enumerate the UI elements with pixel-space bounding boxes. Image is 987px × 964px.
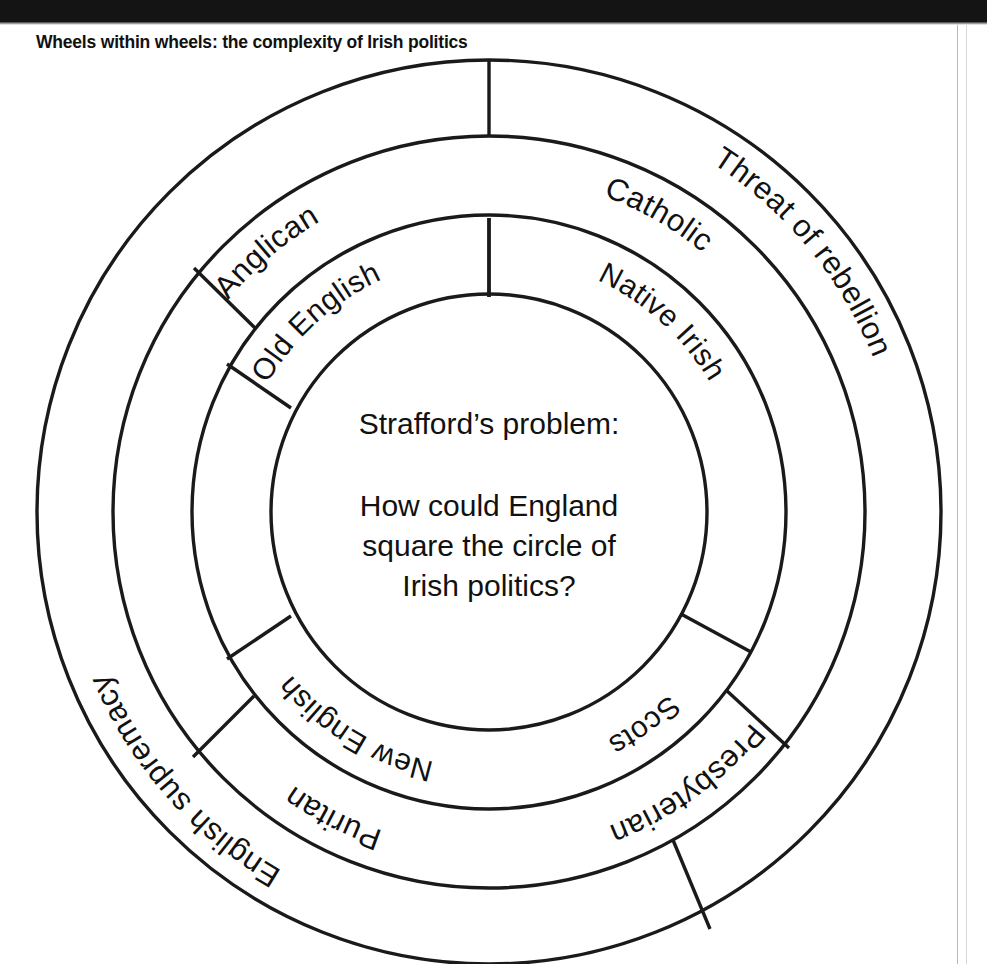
center-line-2: square the circle of [362, 529, 616, 562]
divider-inner-lower-right [681, 614, 751, 652]
center-line-1: How could England [360, 489, 619, 522]
middle-label-puritan: Puritan [278, 779, 386, 857]
middle-label-anglican: Anglican [207, 197, 324, 304]
inner-label-old-english: Old English [244, 255, 385, 387]
outer-label-threat-of-rebellion: Threat of rebellion [708, 140, 899, 361]
center-heading: Strafford’s problem: [359, 407, 620, 440]
wheel-svg: Threat of rebellion English supremacy Ca… [0, 0, 987, 964]
inner-label-scots: Scots [604, 690, 687, 763]
inner-label-native-irish: Native Irish [594, 256, 733, 386]
center-line-3: Irish politics? [402, 569, 575, 602]
wheel-diagram: Threat of rebellion English supremacy Ca… [0, 0, 987, 964]
divider-inner-lower-left [227, 616, 291, 659]
inner-label-new-english: New English [271, 670, 436, 788]
outer-label-english-supremacy: English supremacy [82, 669, 286, 894]
divider-middle-lower-left [193, 696, 254, 757]
